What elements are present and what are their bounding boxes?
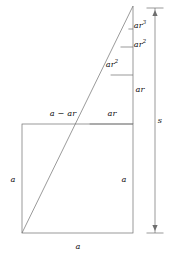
label-a-minus-ar: a − ar: [50, 109, 76, 117]
square-side-a: [22, 124, 133, 233]
s-arrow-head-bottom: [152, 225, 157, 231]
label-ar: ar: [136, 85, 145, 93]
label-s-total: s: [158, 116, 162, 124]
diagonal-line: [22, 6, 133, 233]
label-a-left-side: a: [11, 175, 16, 183]
label-ar-cubed: ar3: [134, 21, 147, 29]
label-a-bottom-side: a: [76, 242, 81, 250]
label-a-right-side: a: [122, 175, 127, 183]
label-ar-squared-right: ar2: [134, 39, 147, 47]
label-ar-squared-inner: ar2: [106, 59, 119, 67]
s-arrow-head-top: [152, 10, 157, 16]
geometric-series-figure: ar3 ar2 ar2 ar a − ar ar a a a s: [0, 0, 169, 259]
label-ar-top-band: ar: [108, 109, 117, 117]
